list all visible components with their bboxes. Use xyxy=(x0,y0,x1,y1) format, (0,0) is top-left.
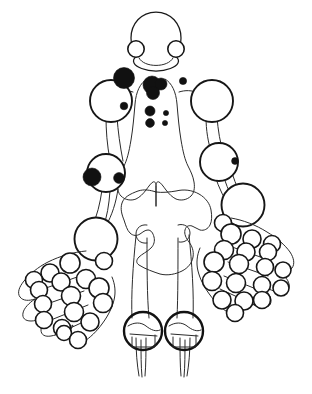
right-dip-2 xyxy=(260,244,277,261)
right-pip-4 xyxy=(227,274,246,293)
right-thumb-ip xyxy=(227,305,244,322)
left-femur xyxy=(132,236,149,318)
left-dip-4 xyxy=(36,312,53,329)
left-mcp-5 xyxy=(81,313,99,331)
left-tibia xyxy=(136,338,146,377)
right-femur xyxy=(177,235,193,318)
skeleton-joint-diagram xyxy=(0,0,312,394)
right-tibia xyxy=(180,338,190,377)
right-mcp-4 xyxy=(203,272,222,291)
mandible-arc xyxy=(139,58,173,66)
legs-group xyxy=(124,224,203,377)
figure-caption xyxy=(0,380,312,394)
left-mcp-4 xyxy=(94,294,113,313)
left-elbow-medial-mark xyxy=(83,168,101,186)
left-carpal-joint xyxy=(96,253,113,270)
skull-group xyxy=(128,12,184,71)
left-hip-head xyxy=(136,225,147,243)
pelvis-group xyxy=(121,190,211,275)
left-shoulder-lateral-mark xyxy=(120,102,128,110)
costochondral-right-lower-mark xyxy=(162,120,167,125)
right-shoulder-joint xyxy=(191,80,233,122)
right-clavicle-dot-mark xyxy=(179,77,186,84)
right-hand-group xyxy=(197,218,294,322)
right-dip-5 xyxy=(254,292,271,309)
costochondral-left-lower-mark xyxy=(146,119,155,128)
right-dip-3 xyxy=(257,259,274,276)
right-pip-3 xyxy=(230,255,249,274)
right-dip-3b xyxy=(275,262,291,278)
left-thumb-ip xyxy=(70,332,87,349)
pelvis-outline xyxy=(121,190,211,275)
costochondral-left-upper-mark xyxy=(145,106,155,116)
costochondral-right-upper-mark xyxy=(163,110,168,115)
joint-assessment-figure xyxy=(0,0,312,394)
left-knee-detail xyxy=(128,323,160,347)
left-dip-3 xyxy=(35,296,52,313)
right-mcp-3 xyxy=(204,252,224,272)
left-acromioclavicular-mark xyxy=(114,68,135,89)
tmj-right-joint xyxy=(168,41,184,57)
right-hip-head xyxy=(178,224,190,242)
right-arm-group xyxy=(179,80,265,232)
sternoclavicular-lower-mark xyxy=(147,87,160,100)
left-elbow-lateral-mark xyxy=(114,173,125,184)
left-pip-4 xyxy=(65,303,84,322)
right-mcp-5 xyxy=(213,291,231,309)
tmj-left-joint xyxy=(128,41,144,57)
left-mcp-1 xyxy=(60,253,80,273)
right-dip-4b xyxy=(273,280,289,296)
right-elbow-lateral-mark xyxy=(232,158,239,165)
left-wrist-joint xyxy=(75,218,118,261)
